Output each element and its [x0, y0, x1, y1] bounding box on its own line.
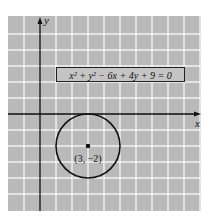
circle-graph: y x x² + y² − 6x + 4y + 9 = 0 (3, −2)	[0, 0, 211, 221]
equation-label: x² + y² − 6x + 4y + 9 = 0	[68, 70, 172, 81]
x-axis-label: x	[194, 117, 200, 129]
center-label: (3, −2)	[74, 153, 101, 165]
center-point	[86, 144, 91, 149]
y-axis-label: y	[43, 14, 49, 26]
